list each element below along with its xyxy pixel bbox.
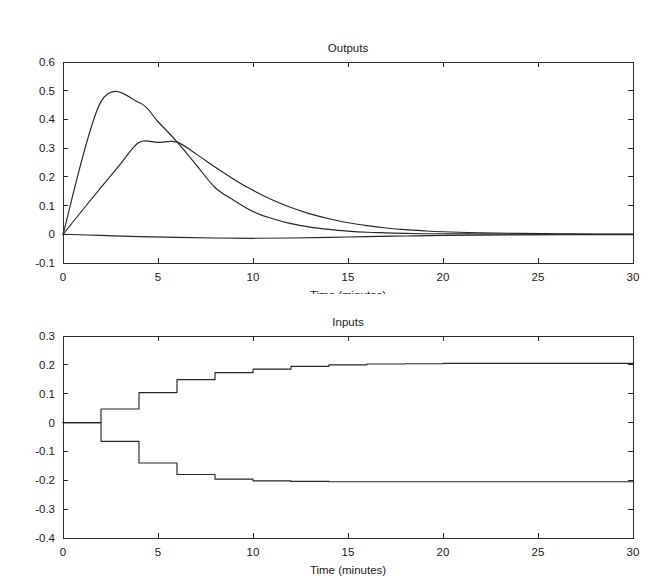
x-tick-label: 10 (247, 271, 260, 283)
chart-title-inputs: Inputs (332, 316, 364, 328)
series-input-upper (63, 363, 633, 422)
y-tick-label: 0 (49, 417, 55, 429)
y-tick-label: 0 (49, 228, 55, 240)
x-tick-label: 15 (342, 271, 355, 283)
chart-panel-inputs: Inputs051015202530-0.4-0.3-0.2-0.100.10.… (0, 300, 669, 588)
y-tick-label: 0.1 (39, 388, 55, 400)
chart-title-outputs: Outputs (328, 42, 369, 54)
x-tick-label: 15 (342, 546, 355, 558)
figure-canvas: Outputs051015202530-0.100.10.20.30.40.50… (0, 0, 669, 588)
y-tick-label: 0.1 (39, 200, 55, 212)
y-tick-label: -0.1 (35, 445, 55, 457)
x-tick-label: 25 (532, 271, 545, 283)
x-tick-label: 30 (627, 271, 640, 283)
series-input-lower (63, 423, 633, 482)
y-tick-label: 0.3 (39, 330, 55, 342)
plot-frame (63, 336, 633, 538)
y-tick-label: 0.6 (39, 56, 55, 68)
chart-panel-outputs: Outputs051015202530-0.100.10.20.30.40.50… (0, 26, 669, 294)
x-tick-label: 5 (155, 271, 161, 283)
x-tick-label: 20 (437, 546, 450, 558)
plot-frame (63, 62, 633, 263)
x-axis-label-inputs: Time (minutes) (310, 564, 386, 576)
y-tick-label: -0.1 (35, 257, 55, 269)
x-tick-label: 10 (247, 546, 260, 558)
y-tick-label: -0.4 (35, 532, 55, 544)
x-tick-label: 25 (532, 546, 545, 558)
y-tick-label: -0.3 (35, 503, 55, 515)
y-tick-label: 0.2 (39, 359, 55, 371)
y-tick-label: 0.4 (39, 113, 56, 125)
x-tick-label: 0 (60, 271, 66, 283)
series-output-3 (63, 234, 633, 238)
x-tick-label: 20 (437, 271, 450, 283)
y-tick-label: -0.2 (35, 474, 55, 486)
series-output-2 (63, 141, 633, 235)
y-tick-label: 0.2 (39, 171, 55, 183)
x-axis-label-outputs: Time (minutes) (310, 289, 386, 294)
x-tick-label: 30 (627, 546, 640, 558)
x-tick-label: 0 (60, 546, 66, 558)
y-tick-label: 0.3 (39, 142, 55, 154)
x-tick-label: 5 (155, 546, 161, 558)
y-tick-label: 0.5 (39, 85, 55, 97)
series-output-1 (63, 91, 633, 234)
